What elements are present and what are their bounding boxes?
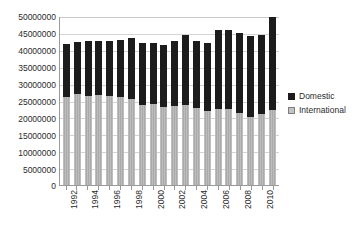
bar-segment-international: [225, 109, 232, 185]
legend-item-international[interactable]: International: [288, 106, 353, 115]
plot-area: [59, 17, 279, 186]
y-axis-tick-label: 50000000: [0, 13, 56, 21]
y-axis-tick-label: 5000000: [0, 166, 56, 174]
bar-column[interactable]: [204, 17, 211, 185]
x-axis-tick-label: 2000: [157, 190, 166, 209]
bar-column[interactable]: [74, 17, 81, 185]
y-axis-tick-label: 10000000: [0, 149, 56, 157]
bar-series-container: [60, 17, 279, 185]
legend-item-domestic[interactable]: Domestic: [288, 92, 353, 101]
bar-column[interactable]: [182, 17, 189, 185]
x-axis-tick-label: 1998: [135, 190, 144, 209]
bar-column[interactable]: [128, 17, 135, 185]
bar-segment-international: [204, 111, 211, 185]
bar-column[interactable]: [269, 17, 276, 185]
bar-segment-international: [182, 105, 189, 185]
bar-segment-international: [193, 108, 200, 185]
bar-segment-international: [63, 97, 70, 185]
bar-segment-international: [171, 106, 178, 185]
bar-segment-international: [160, 107, 167, 185]
bar-segment-international: [117, 97, 124, 185]
bar-segment-international: [236, 113, 243, 185]
x-axis-tick-label: 2004: [200, 190, 209, 209]
bar-segment-domestic: [225, 30, 232, 109]
bar-segment-domestic: [63, 44, 70, 97]
x-axis-tick-label: 1994: [91, 190, 100, 209]
bar-column[interactable]: [215, 17, 222, 185]
bar-column[interactable]: [160, 17, 167, 185]
bar-column[interactable]: [193, 17, 200, 185]
bar-segment-international: [139, 105, 146, 185]
bar-column[interactable]: [258, 17, 265, 185]
x-axis-tick-label: 1992: [70, 190, 79, 209]
bar-segment-domestic: [193, 41, 200, 108]
x-axis-tick-label: 2010: [266, 190, 275, 209]
bar-segment-international: [150, 104, 157, 185]
bar-segment-domestic: [160, 45, 167, 107]
bar-column[interactable]: [225, 17, 232, 185]
bar-segment-domestic: [139, 43, 146, 105]
bar-segment-domestic: [74, 42, 81, 94]
bar-segment-domestic: [215, 30, 222, 109]
bar-segment-domestic: [182, 35, 189, 104]
bar-column[interactable]: [247, 17, 254, 185]
bar-segment-domestic: [247, 36, 254, 117]
chart-legend: Domestic International: [288, 92, 353, 120]
international-swatch-icon: [288, 107, 295, 114]
bar-column[interactable]: [106, 17, 113, 185]
bar-segment-domestic: [236, 33, 243, 113]
bar-segment-domestic: [269, 17, 276, 110]
bar-segment-international: [85, 96, 92, 185]
bar-segment-domestic: [85, 41, 92, 96]
bar-segment-domestic: [117, 40, 124, 97]
bar-segment-international: [106, 96, 113, 185]
bar-column[interactable]: [171, 17, 178, 185]
bar-segment-international: [128, 99, 135, 185]
x-axis-tick-label: 2002: [178, 190, 187, 209]
bar-segment-international: [269, 110, 276, 185]
bar-segment-domestic: [150, 43, 157, 105]
bar-column[interactable]: [95, 17, 102, 185]
y-axis-tick-label: 20000000: [0, 115, 56, 123]
y-axis-tick-label: 45000000: [0, 30, 56, 38]
bar-segment-domestic: [95, 41, 102, 95]
bar-column[interactable]: [150, 17, 157, 185]
legend-label: International: [299, 106, 346, 115]
bar-segment-domestic: [106, 41, 113, 96]
y-axis-tick-label: 40000000: [0, 47, 56, 55]
x-axis-tick-label: 2008: [244, 190, 253, 209]
y-axis-tick-label: 15000000: [0, 132, 56, 140]
bar-segment-international: [74, 94, 81, 185]
bar-segment-domestic: [128, 38, 135, 99]
domestic-swatch-icon: [288, 93, 295, 100]
y-axis-tick-label: 35000000: [0, 64, 56, 72]
bar-column[interactable]: [63, 17, 70, 185]
bar-segment-domestic: [204, 43, 211, 112]
bar-segment-international: [258, 114, 265, 185]
stacked-bar-chart: 50000000 45000000 40000000 35000000 3000…: [0, 0, 353, 234]
bar-segment-international: [247, 117, 254, 185]
bar-column[interactable]: [85, 17, 92, 185]
bar-segment-international: [215, 109, 222, 185]
y-axis-tick-label: 25000000: [0, 98, 56, 106]
x-axis-tick-label: 2006: [222, 190, 231, 209]
bar-segment-domestic: [258, 35, 265, 114]
bar-segment-international: [95, 95, 102, 185]
bar-column[interactable]: [139, 17, 146, 185]
bar-column[interactable]: [117, 17, 124, 185]
y-axis-tick-label: 30000000: [0, 81, 56, 89]
y-axis-tick-label: 0: [0, 182, 56, 190]
x-axis-tick-label: 1996: [113, 190, 122, 209]
bar-segment-domestic: [171, 41, 178, 106]
x-axis-labels: 1992199419961998200020022004200620082010: [59, 190, 279, 234]
bar-column[interactable]: [236, 17, 243, 185]
legend-label: Domestic: [299, 92, 334, 101]
